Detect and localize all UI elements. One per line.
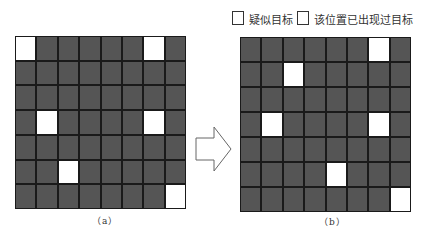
grid-cell: [305, 63, 324, 86]
grid-cell-highlight: [16, 37, 35, 60]
grid-cell: [80, 37, 99, 60]
grid-cell: [284, 188, 303, 211]
grid-cell: [37, 185, 56, 208]
grid-cell: [144, 185, 163, 208]
grid-cell: [123, 185, 142, 208]
grid-cell: [123, 136, 142, 159]
grid-cell: [348, 88, 367, 111]
grid-cell: [262, 38, 281, 61]
caption-b: （b）: [319, 215, 346, 228]
grid-cell: [348, 138, 367, 161]
grid-cell: [391, 138, 410, 161]
grid-cell: [144, 136, 163, 159]
grid-cell: [123, 37, 142, 60]
grid-cell: [391, 63, 410, 86]
grid-cell: [102, 161, 121, 184]
grid-cell: [284, 138, 303, 161]
grid-cell: [369, 188, 388, 211]
grid-cell: [284, 38, 303, 61]
grid-cell: [284, 113, 303, 136]
grid-cell-highlight: [327, 163, 346, 186]
grid-cell-highlight: [144, 111, 163, 134]
grid-cell: [123, 111, 142, 134]
grid-cell: [123, 62, 142, 85]
grid-cell: [391, 113, 410, 136]
grid-cell: [327, 38, 346, 61]
grid-cell: [391, 163, 410, 186]
grid-cell: [59, 37, 78, 60]
grid-cell: [80, 86, 99, 109]
grid-cell: [166, 62, 185, 85]
grid-cell: [16, 136, 35, 159]
grid-cell: [59, 111, 78, 134]
grid-cell: [102, 111, 121, 134]
grid-cell: [102, 185, 121, 208]
grid-cell: [37, 161, 56, 184]
grid-cell: [102, 136, 121, 159]
grid-cell: [166, 86, 185, 109]
grid-cell: [166, 111, 185, 134]
grid-cell: [305, 138, 324, 161]
grid-cell: [241, 113, 260, 136]
grid-cell: [144, 62, 163, 85]
grid-cell: [166, 136, 185, 159]
grid-cell: [327, 188, 346, 211]
grid-cell: [37, 37, 56, 60]
legend-label-suspected-target: 疑似目标: [249, 11, 293, 27]
grid-cell: [391, 38, 410, 61]
grid-cell-highlight: [262, 113, 281, 136]
grid-cell: [305, 188, 324, 211]
grid-cell: [16, 161, 35, 184]
grid-cell: [305, 163, 324, 186]
grid-cell-highlight: [284, 63, 303, 86]
grid-cell: [37, 62, 56, 85]
grid-cell-highlight: [391, 188, 410, 211]
grid-cell: [102, 62, 121, 85]
grid-cell: [305, 38, 324, 61]
grid-cell: [305, 113, 324, 136]
grid-cell: [327, 88, 346, 111]
grid-cell: [16, 62, 35, 85]
grid-cell-highlight: [59, 161, 78, 184]
grid-cell: [369, 88, 388, 111]
grid-cell: [59, 185, 78, 208]
grid-cell: [369, 138, 388, 161]
grid-cell: [369, 63, 388, 86]
grid-cell: [102, 86, 121, 109]
grid-cell: [241, 163, 260, 186]
grid-cell: [262, 138, 281, 161]
grid-cell: [80, 161, 99, 184]
grid-cell: [144, 161, 163, 184]
grid-cell: [59, 62, 78, 85]
grid-cell: [391, 88, 410, 111]
caption-a: （a）: [92, 214, 118, 227]
grid-panel-a: [15, 36, 186, 209]
grid-cell: [327, 63, 346, 86]
grid-cell: [348, 38, 367, 61]
grid-cell: [80, 185, 99, 208]
grid-cell: [59, 86, 78, 109]
grid-cell: [123, 161, 142, 184]
grid-cell: [37, 136, 56, 159]
grid-cell: [241, 38, 260, 61]
grid-cell-highlight: [369, 113, 388, 136]
grid-cell: [80, 136, 99, 159]
grid-cell: [144, 86, 163, 109]
arrow-right-icon: [194, 126, 234, 174]
grid-cell: [348, 188, 367, 211]
grid-cell: [241, 188, 260, 211]
legend-swatch-previous-target: [297, 11, 309, 25]
grid-cell: [241, 138, 260, 161]
grid-cell: [123, 86, 142, 109]
grid-cell-highlight: [369, 38, 388, 61]
grid-cell: [241, 88, 260, 111]
grid-cell: [102, 37, 121, 60]
grid-cell: [284, 88, 303, 111]
grid-cell: [166, 37, 185, 60]
grid-cell: [262, 63, 281, 86]
grid-cell: [166, 161, 185, 184]
grid-cell: [262, 188, 281, 211]
grid-cell: [327, 113, 346, 136]
legend-swatch-suspected-target: [232, 11, 244, 25]
grid-cell: [348, 163, 367, 186]
